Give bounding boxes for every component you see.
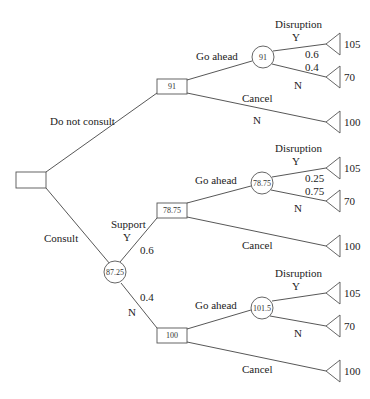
prob-support-n: 0.4 bbox=[140, 291, 154, 303]
value-decision-do-not-consult: 91 bbox=[168, 82, 176, 91]
label-consult: Consult bbox=[44, 232, 78, 244]
label-cancel-3: Cancel bbox=[242, 363, 273, 375]
value-chance-3: 101.5 bbox=[253, 304, 271, 313]
label-y-1: Y bbox=[292, 31, 300, 43]
label-disruption-3: Disruption bbox=[275, 267, 323, 279]
terminal-node-3c bbox=[326, 360, 340, 382]
payoff-1c: 100 bbox=[344, 116, 361, 128]
branch-consult bbox=[46, 188, 110, 264]
label-support-y: Y bbox=[123, 231, 131, 243]
label-support: Support bbox=[111, 218, 146, 230]
value-chance-consult: 87.25 bbox=[106, 268, 124, 277]
label-go-ahead-3: Go ahead bbox=[195, 299, 237, 311]
label-support-n: N bbox=[128, 306, 136, 318]
label-go-ahead-1: Go ahead bbox=[196, 50, 238, 62]
terminal-node-3b bbox=[326, 315, 340, 337]
decision-tree: Do not consult Consult 91 Go ahead 91 Di… bbox=[0, 0, 370, 399]
payoff-3c: 100 bbox=[344, 365, 361, 377]
terminal-node-1c bbox=[326, 111, 340, 133]
label-cancel-n-1: N bbox=[253, 114, 261, 126]
label-disruption-2: Disruption bbox=[275, 142, 323, 154]
terminal-node-2c bbox=[326, 235, 340, 257]
label-cancel-2: Cancel bbox=[242, 239, 273, 251]
branch-support-n bbox=[121, 283, 157, 328]
terminal-node-3a bbox=[326, 282, 340, 304]
payoff-2c: 100 bbox=[344, 240, 361, 252]
label-cancel-1: Cancel bbox=[242, 92, 273, 104]
prob-y-2: 0.25 bbox=[305, 172, 325, 184]
payoff-2a: 105 bbox=[344, 162, 361, 174]
payoff-3b: 70 bbox=[344, 320, 356, 332]
branch-go-ahead-1 bbox=[187, 61, 252, 80]
label-disruption-1: Disruption bbox=[275, 18, 323, 30]
payoff-2b: 70 bbox=[344, 195, 356, 207]
label-n-3: N bbox=[294, 327, 302, 339]
prob-n-2: 0.75 bbox=[305, 185, 325, 197]
label-do-not-consult: Do not consult bbox=[50, 115, 115, 127]
terminal-node-1a bbox=[326, 33, 340, 55]
label-n-1: N bbox=[294, 79, 302, 91]
value-decision-support-y: 78.75 bbox=[163, 206, 181, 215]
payoff-1a: 105 bbox=[344, 38, 361, 50]
payoff-1b: 70 bbox=[344, 71, 356, 83]
terminal-node-2a bbox=[326, 157, 340, 179]
terminal-node-1b bbox=[326, 66, 340, 88]
branch-disruption-y-3 bbox=[272, 293, 326, 301]
label-go-ahead-2: Go ahead bbox=[195, 174, 237, 186]
prob-y-1: 0.6 bbox=[305, 48, 319, 60]
prob-n-1: 0.4 bbox=[305, 61, 319, 73]
value-decision-support-n: 100 bbox=[166, 331, 178, 340]
label-n-2: N bbox=[294, 202, 302, 214]
label-y-2: Y bbox=[292, 155, 300, 167]
payoff-3a: 105 bbox=[344, 287, 361, 299]
branch-do-not-consult bbox=[46, 93, 157, 172]
branch-disruption-n-3 bbox=[270, 316, 326, 326]
value-chance-2: 78.75 bbox=[253, 179, 271, 188]
terminal-node-2b bbox=[326, 190, 340, 212]
label-y-3: Y bbox=[292, 280, 300, 292]
root-decision-node bbox=[16, 172, 46, 188]
branch-go-ahead-2 bbox=[187, 186, 251, 203]
branch-go-ahead-3 bbox=[187, 310, 251, 329]
prob-support-y: 0.6 bbox=[140, 244, 154, 256]
value-chance-1: 91 bbox=[259, 53, 267, 62]
